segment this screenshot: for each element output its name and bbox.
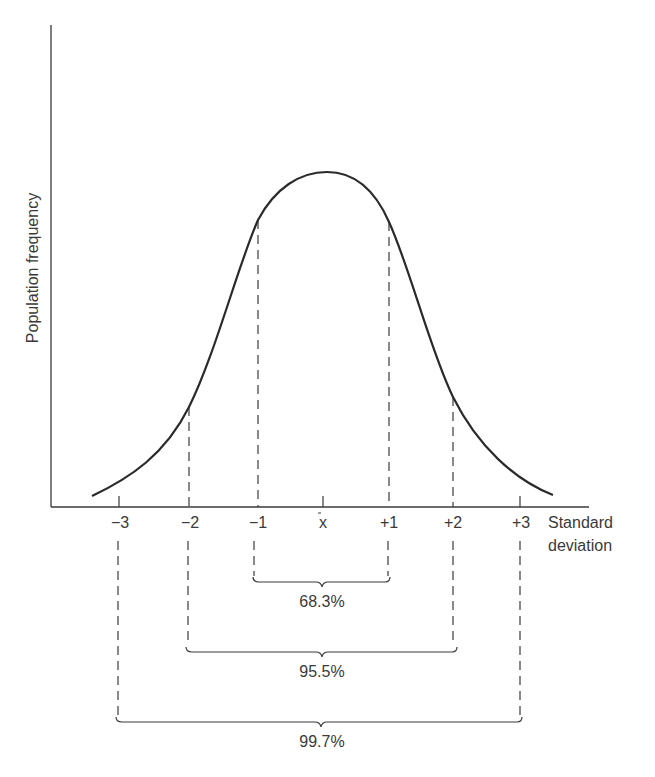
brace-two-sigma [186,647,457,657]
tick-label-p3: +3 [512,514,530,531]
label-three-sigma: 99.7% [299,733,344,750]
label-one-sigma: 68.3% [299,593,344,610]
tick-label-p2: +2 [444,514,462,531]
tick-label-m2: −2 [181,514,199,531]
x-tick-labels: −3 −2 −1 x +1 +2 +3 [111,513,530,531]
normal-distribution-chart: Population frequency −3 −2 −1 x +1 +2 +3… [0,0,655,777]
axes [51,25,589,507]
tick-label-m1: −1 [249,514,267,531]
brace-one-sigma [253,577,390,587]
bell-curve [92,172,553,496]
y-axis-title: Population frequency [24,193,41,343]
sigma-dashed-lines-upper [189,220,453,507]
sigma-dashed-lines-lower [118,541,520,716]
tick-label-m3: −3 [111,514,129,531]
tick-label-p1: +1 [380,514,398,531]
x-axis-title-line2: deviation [548,537,612,554]
x-ticks [119,496,520,507]
tick-label-mean: x [319,514,327,531]
brace-three-sigma [116,717,522,727]
x-axis-title-line1: Standard [548,514,613,531]
label-two-sigma: 95.5% [299,663,344,680]
